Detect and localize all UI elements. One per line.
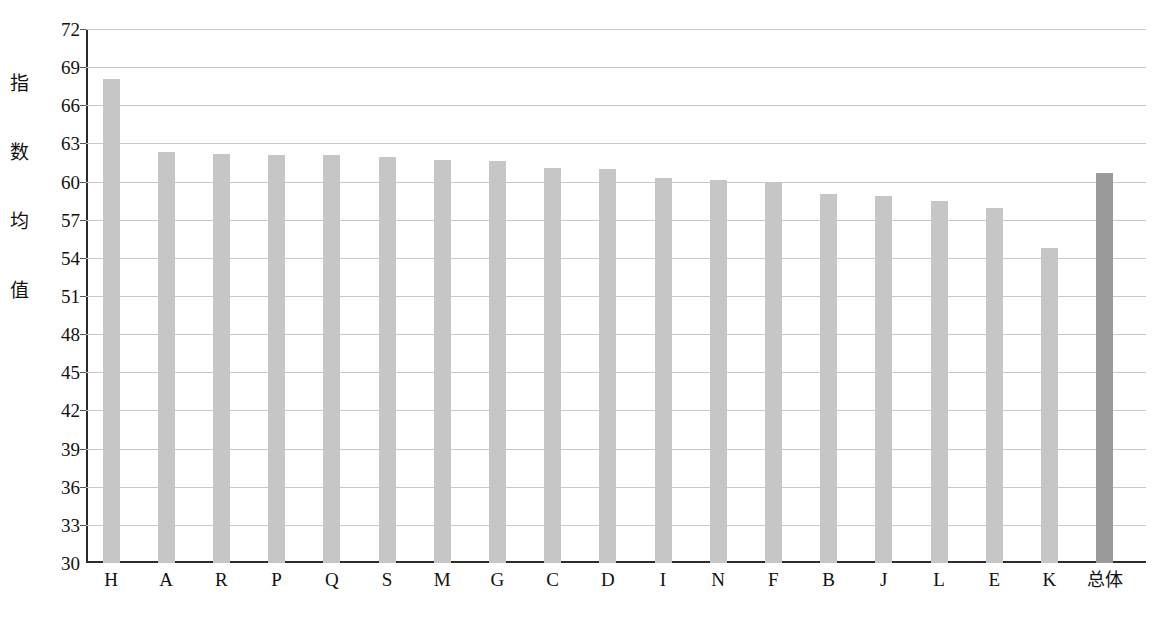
bar	[599, 169, 616, 563]
x-axis-tick-label: G	[467, 568, 527, 592]
bar	[1041, 248, 1058, 563]
x-axis-tick-label: 总体	[1075, 568, 1135, 592]
y-axis-title-char-1: 指	[6, 72, 32, 95]
plot-area	[86, 29, 1146, 563]
x-axis-tick-label: R	[191, 568, 251, 592]
x-axis-tick-label: E	[964, 568, 1024, 592]
y-axis-tick-label: 39	[42, 439, 80, 458]
x-axis-tick-label: H	[81, 568, 141, 592]
y-axis-tick-label: 72	[42, 20, 80, 39]
y-axis-tick-label: 36	[42, 477, 80, 496]
bar	[875, 196, 892, 563]
x-axis-tick-label: N	[688, 568, 748, 592]
x-axis-tick-label: K	[1019, 568, 1079, 592]
bar	[820, 194, 837, 563]
x-axis-tick-label: P	[247, 568, 307, 592]
y-axis-tick-label: 54	[42, 248, 80, 267]
y-axis-title-char-4: 值	[6, 279, 32, 302]
bar	[158, 152, 175, 563]
x-axis-tick-label: A	[136, 568, 196, 592]
bar-chart: 指 数 均 值 726966636057545148454239363330 H…	[0, 0, 1157, 624]
x-axis-tick-label: F	[743, 568, 803, 592]
x-axis-tick-label: L	[909, 568, 969, 592]
y-axis-tick-label: 63	[42, 134, 80, 153]
y-axis-tick-label: 42	[42, 401, 80, 420]
bars	[86, 29, 1146, 563]
x-axis-tick-label: J	[854, 568, 914, 592]
bar	[931, 201, 948, 563]
x-axis-tick-label: S	[357, 568, 417, 592]
bar	[379, 157, 396, 563]
y-axis-tick-label: 69	[42, 58, 80, 77]
y-axis-tick-label: 66	[42, 96, 80, 115]
bar	[323, 155, 340, 563]
y-axis-tick-label: 48	[42, 325, 80, 344]
y-axis-tick-labels: 726966636057545148454239363330	[42, 0, 80, 624]
y-axis-title-char-2: 数	[6, 141, 32, 164]
y-axis-title: 指 数 均 值	[6, 26, 32, 348]
x-axis-tick-label: I	[633, 568, 693, 592]
y-axis-title-char-3: 均	[6, 210, 32, 233]
y-axis-tick-label: 30	[42, 554, 80, 573]
x-axis-tick-label: B	[799, 568, 859, 592]
bar	[103, 79, 120, 563]
bar	[544, 168, 561, 563]
x-axis-tick-label: M	[412, 568, 472, 592]
x-axis-tick-label: C	[523, 568, 583, 592]
x-axis-tick-labels: HARPQSMGCDINFBJLEK总体	[86, 568, 1146, 608]
y-axis-tick-label: 45	[42, 363, 80, 382]
bar	[268, 155, 285, 563]
bar	[765, 182, 782, 563]
bar	[986, 208, 1003, 563]
bar	[434, 160, 451, 563]
bar	[710, 180, 727, 563]
x-axis-tick-label: D	[578, 568, 638, 592]
x-axis-tick-label: Q	[302, 568, 362, 592]
y-axis-tick-label: 60	[42, 172, 80, 191]
y-axis-tick-label: 57	[42, 210, 80, 229]
bar	[213, 154, 230, 563]
y-axis-tick-label: 51	[42, 287, 80, 306]
bar	[655, 178, 672, 563]
bar	[1096, 173, 1113, 563]
bar	[489, 161, 506, 563]
y-axis-tick-label: 33	[42, 515, 80, 534]
